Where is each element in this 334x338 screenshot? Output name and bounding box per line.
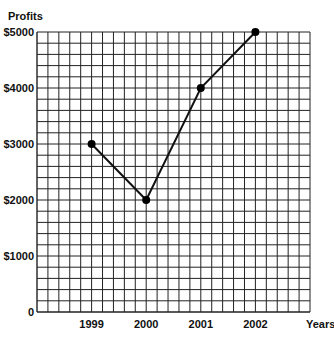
x-tick-label: 2000: [134, 318, 158, 330]
y-tick-label: 0: [28, 306, 34, 318]
data-point: [197, 84, 205, 92]
data-point: [251, 28, 259, 36]
x-tick-label: 2001: [189, 318, 213, 330]
y-tick-label: $2000: [3, 194, 34, 206]
y-tick-label: $5000: [3, 26, 34, 38]
data-line: [92, 32, 256, 200]
x-axis-label: Years: [306, 318, 334, 330]
y-tick-label: $1000: [3, 250, 34, 262]
y-tick-label: $3000: [3, 138, 34, 150]
data-point: [88, 140, 96, 148]
y-tick-label: $4000: [3, 82, 34, 94]
y-axis-label: Profits: [8, 10, 43, 22]
data-point: [142, 196, 150, 204]
x-tick-label: 2002: [243, 318, 267, 330]
x-tick-label: 1999: [79, 318, 103, 330]
line-chart: 0$1000$2000$3000$4000$5000ProfitsYears19…: [0, 0, 334, 338]
